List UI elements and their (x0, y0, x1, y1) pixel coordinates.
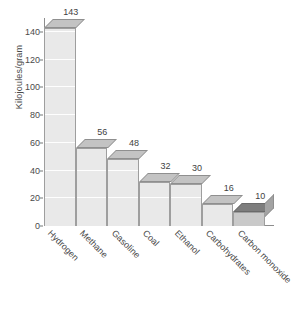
category-label: Methane (78, 228, 110, 260)
y-tick-mark (40, 170, 43, 171)
bar-top-face (202, 195, 243, 204)
y-tick-label: 100 (14, 82, 40, 92)
gridline (140, 197, 170, 198)
y-tick-label: 0 (14, 221, 40, 231)
gridline (171, 197, 201, 198)
bar-front-face (170, 184, 202, 226)
bar-top-face (76, 139, 117, 148)
gridline (45, 170, 75, 171)
bar-front-face (76, 148, 108, 226)
x-axis-categories: HydrogenMethaneGasolineCoalEthanolCarboh… (44, 228, 274, 309)
y-tick-mark (40, 226, 43, 227)
bar-top-face (107, 150, 148, 159)
bar-top-face (170, 175, 211, 184)
category-label: Coal (141, 228, 161, 248)
gridline (45, 31, 75, 32)
plot-area: 020406080100120140 143564832301610 (44, 18, 274, 226)
bar-value-label: 30 (192, 163, 202, 173)
bar-value-label: 10 (255, 191, 265, 201)
category-label: Hydrogen (46, 228, 81, 263)
y-tick-label: 120 (14, 55, 40, 65)
category-label: Carbon monoxide (236, 228, 292, 285)
gridline (45, 86, 75, 87)
bar-value-label: 32 (160, 161, 170, 171)
bar[interactable] (76, 148, 108, 226)
y-tick-mark (40, 142, 43, 143)
gridline (45, 142, 75, 143)
gridline (77, 170, 107, 171)
bar-front-face (107, 159, 139, 226)
bar-top-face (44, 19, 85, 28)
gridline (108, 197, 138, 198)
y-tick-label: 20 (14, 193, 40, 203)
bar-series (44, 18, 274, 226)
y-tick-mark (40, 31, 43, 32)
bar-chart: Kilojoules/gram 020406080100120140 14356… (0, 0, 292, 309)
bar[interactable] (107, 159, 139, 226)
bar-side-face (265, 194, 274, 217)
bar-front-face (44, 28, 76, 226)
gridline (45, 197, 75, 198)
gridline (108, 170, 138, 171)
bar-front-face (139, 182, 171, 226)
gridline (45, 114, 75, 115)
gridline (45, 59, 75, 60)
bar[interactable] (139, 182, 171, 226)
category-label: Ethanol (173, 228, 202, 257)
bar-value-label: 48 (129, 138, 139, 148)
y-tick-mark (40, 198, 43, 199)
bar-front-face (233, 212, 265, 226)
y-tick-label: 140 (14, 27, 40, 37)
bar[interactable] (170, 184, 202, 226)
bar[interactable] (202, 204, 234, 226)
bar-value-label: 16 (224, 183, 234, 193)
y-tick-mark (40, 115, 43, 116)
bar[interactable] (233, 212, 265, 226)
bar-value-label: 56 (97, 127, 107, 137)
category-label: Gasoline (110, 228, 142, 260)
gridline (77, 197, 107, 198)
bar-front-face (202, 204, 234, 226)
y-tick-mark (40, 59, 43, 60)
bar[interactable] (44, 28, 76, 226)
y-tick-label: 60 (14, 138, 40, 148)
y-tick-mark (40, 87, 43, 88)
y-tick-label: 80 (14, 110, 40, 120)
bar-value-label: 143 (63, 7, 78, 17)
y-tick-label: 40 (14, 166, 40, 176)
